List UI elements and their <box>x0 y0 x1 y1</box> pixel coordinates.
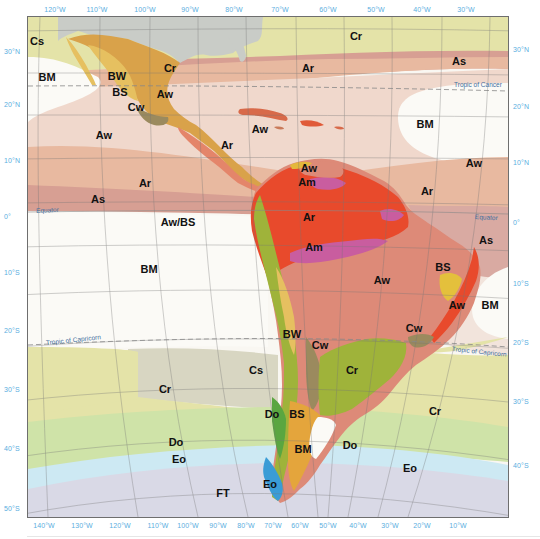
zone-label-cw: Cw <box>128 101 145 113</box>
tick-label: 20°S <box>513 339 529 346</box>
zone-label-aw-bs: Aw/BS <box>161 216 196 228</box>
tick-label: 40°W <box>413 6 431 13</box>
zone-label-eo: Eo <box>403 462 417 474</box>
zone-label-bm: BM <box>294 443 311 455</box>
tick-label: 30°W <box>381 522 399 529</box>
zone-label-eo: Eo <box>172 453 186 465</box>
zone-label-aw: Aw <box>157 88 173 100</box>
tick-label: 10°S <box>4 269 20 276</box>
zone-label-aw: Aw <box>374 274 390 286</box>
zone-label-am: Am <box>298 176 316 188</box>
tick-label: 10°W <box>449 522 467 529</box>
tick-label: 0° <box>513 219 520 226</box>
zone-label-cr: Cr <box>429 405 441 417</box>
tick-label: 70°W <box>264 522 282 529</box>
zone-label-bs: BS <box>435 261 450 273</box>
tick-label: 110°W <box>86 6 107 13</box>
zone-label-am: Am <box>305 241 323 253</box>
zone-label-bm: BM <box>416 118 433 130</box>
zone-label-ar: Ar <box>139 177 151 189</box>
tick-label: 90°W <box>181 6 199 13</box>
zone-label-aw: Aw <box>301 162 317 174</box>
tick-label: 40°W <box>349 522 367 529</box>
tick-label: 110°W <box>147 522 168 529</box>
tick-label: 130°W <box>71 522 93 529</box>
zone-label-cw: Cw <box>406 322 423 334</box>
tick-label: 50°W <box>367 6 385 13</box>
equator-label-left: Equator <box>36 206 59 214</box>
zone-label-cs: Cs <box>30 35 44 47</box>
zone-label-cr: Cr <box>350 30 362 42</box>
zone-label-ft: FT <box>216 487 229 499</box>
tick-label: 10°S <box>513 280 529 287</box>
zone-label-as: As <box>452 55 466 67</box>
equator-label-right: Equator <box>475 213 498 221</box>
zone-label-bs: BS <box>112 86 127 98</box>
zone-label-bm: BM <box>38 71 55 83</box>
tick-label: 0° <box>4 213 11 220</box>
zone-label-ar: Ar <box>421 185 433 197</box>
zone-bm-south <box>28 211 268 352</box>
tick-label: 50°S <box>4 505 20 512</box>
tick-label: 20°S <box>4 327 20 334</box>
tick-label: 10°N <box>513 159 529 166</box>
tick-label: 120°W <box>44 6 66 13</box>
tropic-of-cancer-label: Tropic of Cancer <box>454 81 502 88</box>
zone-label-aw: Aw <box>449 299 465 311</box>
tick-label: 20°N <box>4 101 20 108</box>
zone-label-cr: Cr <box>346 364 358 376</box>
tick-label: 30°S <box>4 386 20 393</box>
zone-label-as: As <box>91 193 105 205</box>
zone-label-cw: Cw <box>312 339 329 351</box>
zone-label-ar: Ar <box>221 139 233 151</box>
zone-label-bw: BW <box>283 328 301 340</box>
zone-label-bm: BM <box>481 299 498 311</box>
tick-label: 80°W <box>237 522 255 529</box>
zone-label-cr: Cr <box>164 62 176 74</box>
zone-label-bm: BM <box>140 263 157 275</box>
zone-label-ar: Ar <box>302 62 314 74</box>
tick-label: 100°W <box>177 522 199 529</box>
tick-label: 30°W <box>457 6 475 13</box>
tick-label: 60°W <box>291 522 309 529</box>
zone-label-eo: Eo <box>263 478 277 490</box>
tick-label: 10°N <box>4 157 20 164</box>
tick-label: 30°N <box>4 48 20 55</box>
zone-label-bw: BW <box>108 70 126 82</box>
zone-label-ar: Ar <box>303 211 315 223</box>
tick-label: 20°N <box>513 103 529 110</box>
zone-label-bs: BS <box>289 408 304 420</box>
zone-label-do: Do <box>265 408 280 420</box>
tick-label: 140°W <box>33 522 55 529</box>
tick-label: 40°S <box>513 462 529 469</box>
tick-label: 20°W <box>413 522 431 529</box>
tick-label: 50°W <box>319 522 337 529</box>
tick-label: 30°N <box>513 46 529 53</box>
zone-label-cs: Cs <box>249 364 263 376</box>
zone-label-do: Do <box>343 439 358 451</box>
tick-label: 100°W <box>134 6 156 13</box>
tick-label: 80°W <box>225 6 243 13</box>
zone-label-cr: Cr <box>159 383 171 395</box>
zone-label-do: Do <box>169 436 184 448</box>
bottom-divider <box>27 536 540 537</box>
tick-label: 60°W <box>319 6 337 13</box>
zone-label-aw: Aw <box>252 123 268 135</box>
tick-label: 40°S <box>4 445 20 452</box>
tick-label: 120°W <box>109 522 131 529</box>
zone-label-aw: Aw <box>96 129 112 141</box>
tick-label: 90°W <box>209 522 227 529</box>
tick-label: 70°W <box>271 6 289 13</box>
tick-label: 30°S <box>513 398 529 405</box>
zone-label-aw: Aw <box>466 157 482 169</box>
zone-label-as: As <box>479 234 493 246</box>
